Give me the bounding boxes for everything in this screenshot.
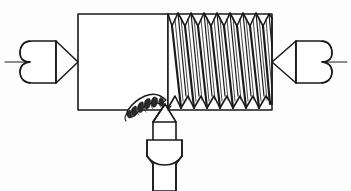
threaded-section (168, 13, 272, 110)
tool-holder (147, 140, 182, 191)
left-lathe-center (20, 41, 78, 83)
technical-drawing-canvas: Thread cutting on a lathe Technical line… (0, 0, 351, 191)
thread-body-base (168, 14, 272, 110)
right-lathe-center (272, 41, 332, 83)
right-center-cone (272, 41, 296, 83)
lathe-thread-cutting-illustration (0, 0, 351, 191)
left-center-cone (56, 41, 78, 83)
